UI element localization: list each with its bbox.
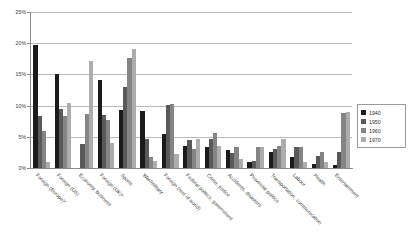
legend-label: 1970: [369, 137, 381, 143]
bar-group: [331, 12, 352, 168]
bar-group: [202, 12, 223, 168]
legend-swatch-icon: [361, 128, 366, 133]
bar-group: [117, 12, 138, 168]
bar: [217, 146, 221, 168]
x-axis-tick-label: Health: [313, 172, 328, 187]
legend-label: 1960: [369, 128, 381, 134]
bar-group: [159, 12, 180, 168]
bar: [89, 61, 93, 168]
bar-group: [288, 12, 309, 168]
legend-item[interactable]: 1960: [361, 126, 403, 135]
y-tick-label: 10%: [2, 103, 26, 109]
bar: [132, 49, 136, 168]
y-tick-label: 0%: [2, 165, 26, 171]
bar: [346, 112, 350, 168]
bar-group: [224, 12, 245, 168]
x-axis-labels: Foreign (Europe)*Foreign (US)Economy, bu…: [31, 170, 352, 248]
y-tick-label: 15%: [2, 71, 26, 77]
legend-item[interactable]: 1970: [361, 135, 403, 144]
bar-group: [74, 12, 95, 168]
bar-group: [181, 12, 202, 168]
bar-chart: 0%5%10%15%20%25% Foreign (Europe)*Foreig…: [0, 0, 414, 249]
bar: [260, 147, 264, 168]
chart-legend: 1940195019601970: [357, 104, 406, 148]
legend-swatch-icon: [361, 110, 366, 115]
legend-swatch-icon: [361, 119, 366, 124]
legend-label: 1950: [369, 119, 381, 125]
bar: [110, 143, 114, 168]
legend-item[interactable]: 1940: [361, 108, 403, 117]
legend-item[interactable]: 1950: [361, 117, 403, 126]
bar: [303, 162, 307, 168]
x-axis-tick-label: Foreign (rest of world): [163, 172, 202, 211]
x-axis-tick-label: War/military: [141, 172, 164, 195]
y-tick-label: 5%: [2, 134, 26, 140]
x-axis-tick-label: Labour: [291, 172, 306, 187]
legend-swatch-icon: [361, 137, 366, 142]
x-axis-tick-label: Sports: [120, 172, 135, 187]
bar: [67, 103, 71, 168]
bar: [324, 162, 328, 168]
x-axis-tick-label: Entertainment: [334, 172, 361, 199]
bar: [196, 139, 200, 168]
bar: [281, 139, 285, 168]
bar-group: [309, 12, 330, 168]
bar: [174, 154, 178, 168]
bar-group: [266, 12, 287, 168]
bar: [239, 159, 243, 168]
bar-group: [138, 12, 159, 168]
bar: [46, 162, 50, 168]
bar-group: [52, 12, 73, 168]
bar: [153, 161, 157, 168]
bar-groups: [31, 12, 352, 168]
bar-group: [31, 12, 52, 168]
y-tick-label: 25%: [2, 9, 26, 15]
y-tick-label: 20%: [2, 40, 26, 46]
x-axis-line: [30, 168, 353, 169]
bar-group: [95, 12, 116, 168]
legend-label: 1940: [369, 110, 381, 116]
bar-group: [245, 12, 266, 168]
